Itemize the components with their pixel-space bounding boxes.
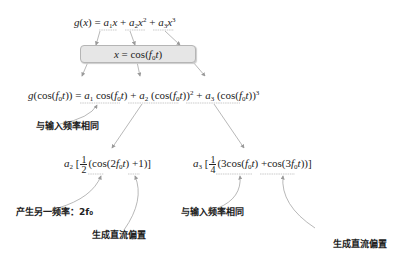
top-formula: g(x) = a1x + a2x2 + a3x3 xyxy=(74,16,176,28)
top-formula-lhs: g(x) = xyxy=(74,16,103,28)
second-order-expansion: a2 [12(cos(2f0t) +1)] xyxy=(64,155,151,174)
annotation-same-frequency-1: 与输入频率相同 xyxy=(36,119,99,132)
substitution-label: x = cos(f0t) xyxy=(114,48,162,60)
annotation-dc-bias-1: 生成直流偏置 xyxy=(92,228,146,241)
annotation-same-frequency-2: 与输入频率相同 xyxy=(181,205,244,218)
substitution-box: x = cos(f0t) xyxy=(80,45,196,63)
fraction-quarter: 14 xyxy=(209,155,216,174)
third-order-expansion: a3 [14(3cos(f0t) +cos(3f0t))] xyxy=(193,155,312,174)
annotation-new-frequency: 产生另一频率：2f₀ xyxy=(16,205,93,218)
fraction-half: 12 xyxy=(80,155,87,174)
expanded-formula: g(cos(f0t)) = a1 cos(f0t) + a2 (cos(f0t)… xyxy=(28,89,259,101)
annotation-dc-bias-2: 生成直流偏置 xyxy=(333,237,387,250)
